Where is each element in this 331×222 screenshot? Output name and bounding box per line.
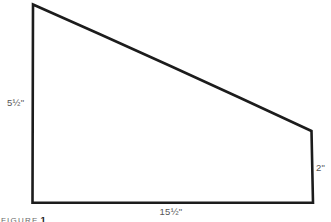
dimension-label-bottom-side: 15½" (151, 207, 191, 217)
dimension-label-right-side: 2" (316, 163, 325, 173)
figure-caption-label: FIGURE (1, 216, 38, 222)
figure-caption: FIGURE1 (1, 215, 46, 222)
dimension-label-left-side: 5½" (7, 98, 24, 108)
figure-canvas: 5½" 2" 15½" FIGURE1 (0, 0, 331, 222)
figure-caption-number: 1 (40, 214, 45, 222)
trapezoid-diagram (0, 0, 331, 222)
quadrilateral-outline (33, 5, 314, 203)
